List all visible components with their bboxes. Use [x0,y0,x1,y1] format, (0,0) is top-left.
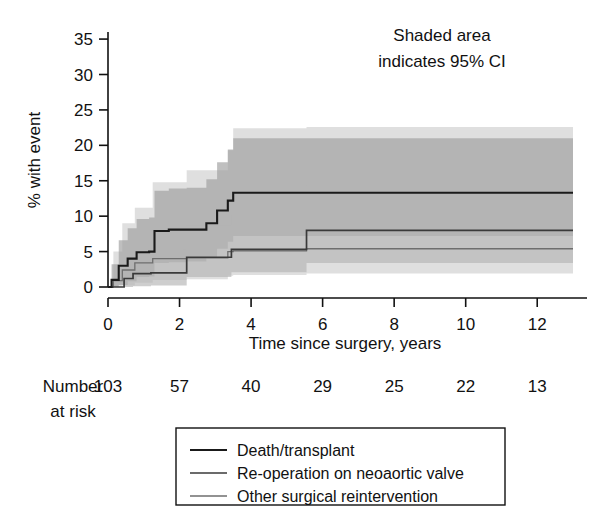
legend-label: Death/transplant [237,442,355,459]
x-tick-label: 12 [528,315,547,334]
x-tick-labels: 024681012 [103,315,546,334]
chart-svg: 05101520253035 024681012 % with event Ti… [0,0,615,524]
y-tick-labels: 05101520253035 [74,30,93,297]
x-tick-label: 4 [246,315,255,334]
y-axis-label: % with event [25,112,44,209]
x-tick-label: 10 [456,315,475,334]
x-tick-label: 8 [389,315,398,334]
number-at-risk-row: Number at risk 103574029252213 [43,377,547,421]
x-tick-label: 2 [175,315,184,334]
risk-value: 29 [313,377,332,396]
y-tick-label: 15 [74,172,93,191]
kaplan-meier-figure: 05101520253035 024681012 % with event Ti… [0,0,615,524]
legend: Death/transplantRe-operation on neoaorti… [176,428,505,505]
risk-value: 40 [242,377,261,396]
legend-label: Other surgical reintervention [237,488,438,505]
y-tick-label: 20 [74,136,93,155]
y-tick-label: 5 [84,243,93,262]
risk-value: 57 [170,377,189,396]
risk-value: 22 [456,377,475,396]
y-tick-label: 10 [74,207,93,226]
x-tick-label: 0 [103,315,112,334]
y-tick-label: 0 [84,278,93,297]
y-axis-ticks [99,39,108,287]
annotation-line-1: Shaded area [393,26,491,45]
risk-value: 103 [94,377,122,396]
risk-label-line-2: at risk [50,402,96,421]
y-tick-label: 35 [74,30,93,49]
annotation-line-2: indicates 95% CI [378,52,506,71]
y-tick-label: 25 [74,101,93,120]
risk-values: 103574029252213 [94,377,547,396]
risk-value: 13 [528,377,547,396]
legend-label: Re-operation on neoaortic valve [237,465,464,482]
ci-bands [108,127,573,287]
x-axis-ticks [108,298,537,307]
x-axis-label: Time since surgery, years [249,334,442,353]
risk-value: 25 [385,377,404,396]
x-tick-label: 6 [318,315,327,334]
y-tick-label: 30 [74,66,93,85]
